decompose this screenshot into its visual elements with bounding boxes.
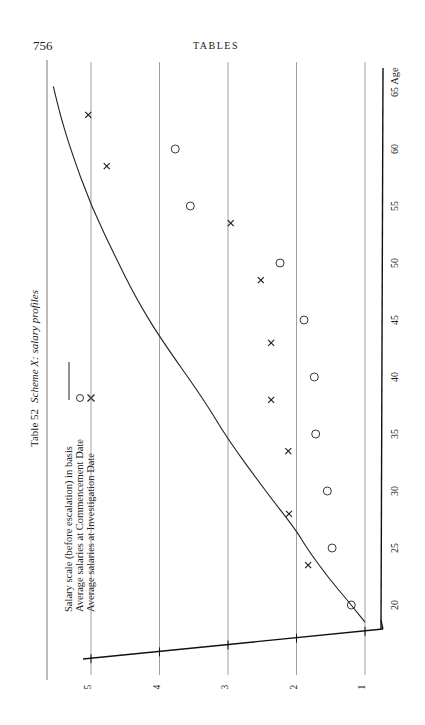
age-tick-30: 30 (389, 486, 400, 496)
commencement-circle-icon (328, 544, 336, 552)
value-tick-5: 5 (83, 684, 93, 689)
age-tick-60: 60 (389, 144, 400, 154)
salary-profile-chart: Table 52Scheme X: salary profiles Salary… (0, 0, 425, 725)
investigation-cross-icon (104, 163, 110, 169)
age-tick-25: 25 (389, 543, 400, 553)
age-tick-65: 65 (389, 87, 400, 97)
investigation-cross-icon (268, 340, 274, 346)
age-tick-55: 55 (389, 201, 400, 211)
investigation-cross-icon (268, 397, 274, 403)
commencement-circle-icon (310, 373, 318, 381)
value-tick-3: 3 (220, 684, 230, 689)
investigation-cross-icon (85, 112, 91, 118)
value-tick-1: 1 (357, 684, 367, 689)
commencement-circle-icon (323, 487, 331, 495)
age-tick-40: 40 (389, 372, 400, 382)
legend-label-investigation: Average salaries at Investigation Date (85, 453, 96, 612)
age-tick-35: 35 (389, 429, 400, 439)
caption-group: Table 52Scheme X: salary profiles (28, 290, 40, 447)
commencement-circle-icon (171, 145, 179, 153)
axes (83, 68, 383, 659)
age-tick-45: 45 (389, 315, 400, 325)
age-tick-50: 50 (389, 258, 400, 268)
legend-label-commencement: Average salaries at Commencement Date (74, 439, 85, 612)
investigation-cross-icon (228, 220, 234, 226)
age-tick-20: 20 (389, 600, 400, 610)
salary-scale-curve (53, 86, 365, 622)
commencement-circle-icon (186, 202, 194, 210)
investigation-markers (85, 112, 311, 568)
value-tick-4: 4 (152, 684, 162, 689)
commencement-circle-icon (276, 259, 284, 267)
investigation-cross-icon (305, 562, 311, 568)
tick-labels: 20253035404550556065Age12345 (83, 67, 400, 689)
age-axis (381, 68, 383, 629)
legend-circle-icon (77, 395, 84, 402)
investigation-cross-icon (285, 448, 291, 454)
investigation-cross-icon (258, 277, 264, 283)
chart-title: Table 52Scheme X: salary profiles (28, 290, 40, 447)
commencement-circle-icon (312, 430, 320, 438)
investigation-cross-icon (286, 511, 292, 517)
value-tick-2: 2 (289, 684, 299, 689)
value-gridlines (91, 62, 365, 675)
commencement-markers (171, 145, 355, 609)
commencement-circle-icon (300, 316, 308, 324)
age-axis-label: Age (389, 67, 400, 85)
value-axis-baseline (83, 629, 383, 659)
